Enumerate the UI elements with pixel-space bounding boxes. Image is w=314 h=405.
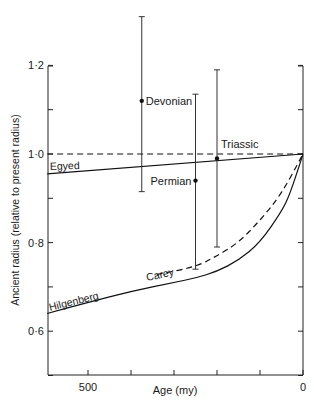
curve-label: Egyed bbox=[50, 159, 80, 172]
x-tick-label: 0 bbox=[300, 381, 306, 393]
point-label: Devonian bbox=[146, 95, 192, 107]
y-axis-label: Ancient radius (relative to present radi… bbox=[9, 114, 21, 305]
ticks bbox=[48, 65, 303, 375]
series-carey bbox=[157, 154, 303, 274]
curve-label: Hilgenberg bbox=[48, 289, 100, 313]
data-point bbox=[193, 178, 197, 182]
series-egyed bbox=[47, 154, 303, 174]
tick-labels: 50001·21·00·80·6 bbox=[28, 59, 306, 393]
point-label: Permian bbox=[151, 175, 192, 187]
point-label: Triassic bbox=[221, 138, 259, 150]
chart: 50001·21·00·80·6 DevonianPermianTriassic… bbox=[0, 0, 314, 405]
axes bbox=[48, 66, 303, 375]
series-labels: DevonianPermianTriassicEgyedCareyHilgenb… bbox=[48, 95, 259, 313]
data-point bbox=[140, 99, 144, 103]
y-tick-label: 1·2 bbox=[28, 59, 44, 71]
x-tick-label: 500 bbox=[79, 381, 97, 393]
data-point bbox=[215, 156, 219, 160]
error-bars bbox=[139, 17, 220, 270]
x-axis-label: Age (my) bbox=[153, 384, 198, 396]
y-tick-label: 1·0 bbox=[28, 148, 44, 160]
y-tick-label: 0·6 bbox=[28, 325, 44, 337]
y-tick-label: 0·8 bbox=[28, 237, 44, 249]
curve-label: Carey bbox=[145, 265, 176, 283]
